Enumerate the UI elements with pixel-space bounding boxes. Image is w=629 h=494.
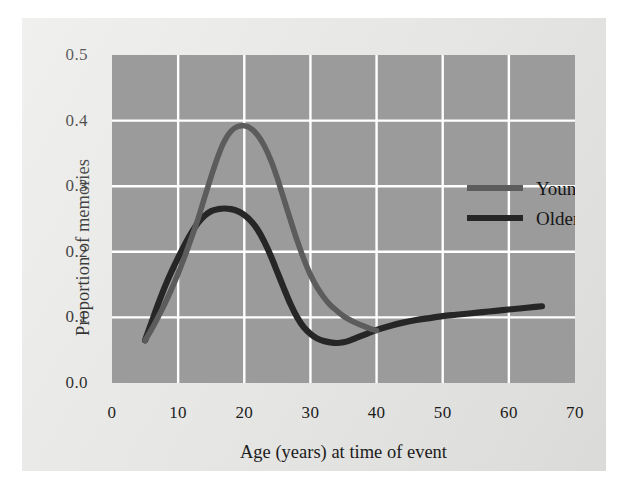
legend-item-older-adults: Older adults bbox=[467, 203, 575, 233]
y-tick-label-0.5: 0.5 bbox=[44, 45, 88, 65]
plot-area: Young adults Older adults bbox=[112, 55, 575, 383]
x-tick-label-0: 0 bbox=[108, 403, 117, 423]
x-tick-label-40: 40 bbox=[368, 403, 386, 423]
x-tick-label-60: 60 bbox=[500, 403, 518, 423]
y-tick-label-0.1: 0.1 bbox=[44, 307, 88, 327]
x-tick-label-10: 10 bbox=[169, 403, 187, 423]
legend-swatch-older-adults bbox=[467, 215, 523, 221]
chart-figure: Proportion of memories 0.5 0.4 0.3 0.2 0… bbox=[0, 0, 629, 494]
legend-label-young-adults: Young adults bbox=[536, 179, 575, 198]
chart-legend: Young adults Older adults bbox=[467, 173, 575, 233]
x-axis-title: Age (years) at time of event bbox=[112, 442, 575, 463]
y-tick-label-0.4: 0.4 bbox=[44, 111, 88, 131]
series-lines bbox=[145, 126, 542, 343]
x-tick-label-30: 30 bbox=[301, 403, 319, 423]
legend-swatch-young-adults bbox=[467, 185, 523, 191]
legend-item-young-adults: Young adults bbox=[467, 173, 575, 203]
y-tick-label-0.3: 0.3 bbox=[44, 176, 88, 196]
y-tick-label-0.0: 0.0 bbox=[44, 373, 88, 393]
x-tick-label-20: 20 bbox=[235, 403, 253, 423]
legend-label-older-adults: Older adults bbox=[536, 209, 575, 228]
y-tick-label-0.2: 0.2 bbox=[44, 242, 88, 262]
x-tick-label-50: 50 bbox=[434, 403, 452, 423]
x-tick-label-70: 70 bbox=[566, 403, 584, 423]
